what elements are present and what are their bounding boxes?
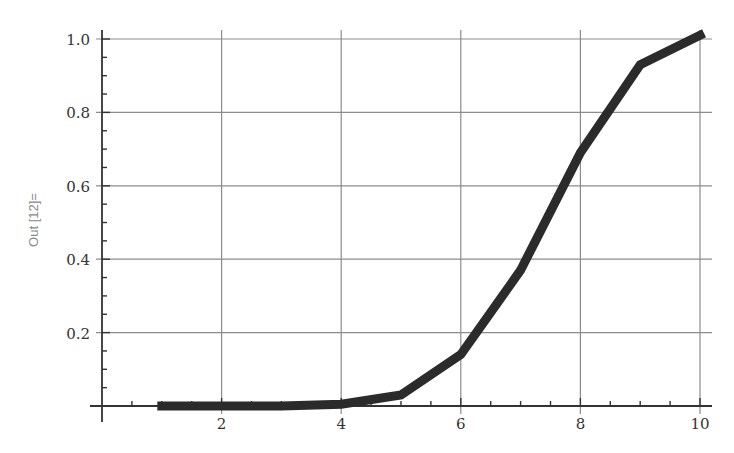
x-tick-label: 10 <box>690 415 709 433</box>
x-tick-label: 8 <box>576 415 586 433</box>
y-tick-label: 1.0 <box>66 31 90 49</box>
y-tick-label: 0.2 <box>66 325 90 343</box>
y-tick-label: 0.6 <box>66 178 90 196</box>
x-tick-label: 4 <box>336 415 346 433</box>
y-tick-label: 0.8 <box>66 104 90 122</box>
x-tick-label: 2 <box>217 415 227 433</box>
y-tick-label: 0.4 <box>66 251 90 269</box>
line-chart: 0.20.40.60.81.0246810 <box>0 0 734 453</box>
data-line <box>162 35 700 406</box>
x-tick-label: 6 <box>456 415 466 433</box>
